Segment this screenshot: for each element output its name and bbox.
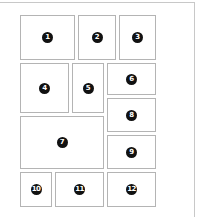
panel-8: 8 [107,98,156,132]
number-badge-1: 1 [42,32,53,43]
panel-5: 5 [72,63,104,113]
number-badge-3: 3 [132,32,143,43]
panel-4: 4 [20,63,69,113]
page-frame-top-edge [0,2,195,3]
page-frame-right-edge [194,2,195,217]
number-badge-4: 4 [39,83,50,94]
panel-9: 9 [107,135,156,169]
panel-12: 12 [107,172,156,207]
panel-7: 7 [20,116,104,169]
number-badge-9: 9 [126,147,137,158]
panel-10: 10 [20,172,52,207]
number-badge-5: 5 [83,83,94,94]
number-badge-7: 7 [57,137,68,148]
number-badge-8: 8 [126,110,137,121]
number-badge-12: 12 [126,184,137,195]
panel-6: 6 [107,63,156,95]
panel-11: 11 [55,172,104,207]
number-badge-2: 2 [92,32,103,43]
number-badge-6: 6 [126,74,137,85]
panel-3: 3 [119,15,156,60]
panel-1: 1 [20,15,75,60]
number-badge-11: 11 [74,184,85,195]
number-badge-10: 10 [31,184,42,195]
panel-2: 2 [78,15,116,60]
